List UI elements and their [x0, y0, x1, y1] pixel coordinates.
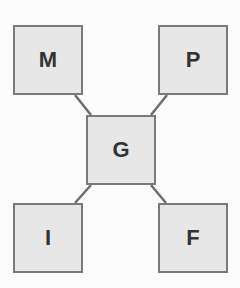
node-p: P: [158, 25, 228, 95]
node-g-center: G: [86, 115, 156, 185]
edge-p-g: [151, 95, 167, 115]
edge-m-g: [75, 95, 91, 115]
node-g-label: G: [112, 139, 129, 161]
node-i: I: [13, 203, 83, 273]
node-f: F: [158, 203, 228, 273]
node-m: M: [13, 25, 83, 95]
node-m-label: M: [39, 49, 57, 71]
hub-spoke-diagram: M P G I F: [0, 0, 240, 288]
node-p-label: P: [186, 49, 201, 71]
edge-i-g: [75, 185, 91, 203]
edge-f-g: [151, 185, 166, 203]
node-f-label: F: [186, 227, 199, 249]
node-i-label: I: [45, 227, 51, 249]
